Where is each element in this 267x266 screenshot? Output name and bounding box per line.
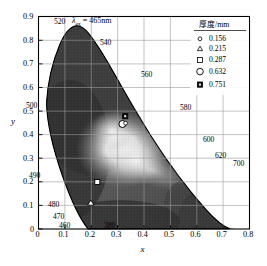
x-tick-label-6: 0.6 bbox=[190, 231, 200, 239]
y-tick-label-9: 0.9 bbox=[23, 13, 33, 21]
wavelength-label-580: 580 bbox=[180, 104, 191, 112]
y-tick-label-8: 0.8 bbox=[23, 37, 33, 45]
wavelength-label-520: 520 bbox=[54, 18, 65, 26]
wavelength-label-620: 620 bbox=[215, 152, 226, 160]
x-tick-label-5: 0.5 bbox=[164, 231, 174, 239]
wavelength-label-560: 560 bbox=[141, 71, 152, 79]
excitation-annotation: λex = 465nm bbox=[72, 17, 111, 27]
wavelength-label-500: 500 bbox=[26, 102, 37, 110]
y-tick-label-7: 0.7 bbox=[23, 60, 33, 68]
chromaticity-figure: 0 0.1 0.2 0.3 0.4 0.5 0.6 0.7 0.8 0 0.1 … bbox=[0, 0, 267, 266]
data-marker-circle-small-0156[interactable] bbox=[124, 121, 128, 125]
legend-marker-square-filled-center bbox=[199, 84, 201, 86]
wavelength-label-470: 470 bbox=[53, 213, 64, 221]
wavelength-label-600: 600 bbox=[203, 136, 214, 144]
wavelength-label-490: 490 bbox=[29, 172, 40, 180]
legend-label-1: 0.215 bbox=[209, 45, 226, 53]
y-tick-label-3: 0.3 bbox=[23, 155, 33, 163]
wavelength-label-380: 380 bbox=[104, 222, 115, 230]
legend-label-2: 0.287 bbox=[209, 56, 226, 64]
y-tick-label-0: 0 bbox=[30, 226, 34, 234]
wavelength-label-540: 540 bbox=[100, 39, 111, 47]
lambda-value: = 465nm bbox=[81, 16, 112, 25]
y-tick-label-1: 0.1 bbox=[23, 202, 33, 210]
chart-svg bbox=[0, 0, 267, 266]
x-tick-label-7: 0.7 bbox=[217, 231, 227, 239]
x-tick-label-8: 0.8 bbox=[243, 231, 253, 239]
legend-label-3: 0.632 bbox=[209, 68, 226, 76]
wavelength-label-460: 460 bbox=[59, 222, 70, 230]
y-tick-label-4: 0.4 bbox=[23, 131, 33, 139]
data-marker-square-filled-0751-center bbox=[124, 115, 126, 117]
legend-title: 厚度/mm bbox=[199, 21, 229, 29]
legend-marker-square bbox=[198, 58, 203, 63]
x-tick-label-0: 0 bbox=[36, 231, 40, 239]
data-marker-square-0287[interactable] bbox=[95, 180, 100, 185]
wavelength-label-480: 480 bbox=[48, 201, 59, 209]
wavelength-label-700: 700 bbox=[233, 160, 244, 168]
x-tick-label-2: 0.2 bbox=[85, 231, 95, 239]
legend-marker-circle-small bbox=[198, 37, 202, 41]
y-axis-label: y bbox=[11, 117, 15, 126]
x-axis-label: x bbox=[141, 245, 145, 254]
x-tick-label-1: 0.1 bbox=[58, 231, 68, 239]
legend-label-0: 0.156 bbox=[209, 35, 226, 43]
y-tick-label-6: 0.6 bbox=[23, 84, 33, 92]
x-tick-label-4: 0.4 bbox=[138, 231, 148, 239]
legend-label-4: 0.751 bbox=[209, 81, 226, 89]
x-tick-label-3: 0.3 bbox=[111, 231, 121, 239]
legend-marker-circle-large bbox=[197, 68, 204, 75]
